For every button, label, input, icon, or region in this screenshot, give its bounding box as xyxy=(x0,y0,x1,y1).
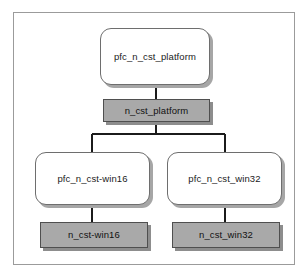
node-label: n_cst_platform xyxy=(125,106,189,116)
node-pfc-n-cst-win16[interactable]: pfc_n_cst-win16 xyxy=(35,152,150,205)
node-label: n_cst_win32 xyxy=(199,230,253,240)
diagram-canvas: pfc_n_cst_platform n_cst_platform pfc_n_… xyxy=(0,0,308,278)
node-label: pfc_n_cst_platform xyxy=(114,52,196,62)
node-n-cst-platform[interactable]: n_cst_platform xyxy=(103,99,210,122)
node-label: n_cst-win16 xyxy=(68,230,120,240)
node-n-cst-win32[interactable]: n_cst_win32 xyxy=(172,222,280,248)
node-pfc-n-cst-win32[interactable]: pfc_n_cst_win32 xyxy=(167,152,282,205)
node-pfc-n-cst-platform[interactable]: pfc_n_cst_platform xyxy=(100,28,210,85)
node-n-cst-win16[interactable]: n_cst-win16 xyxy=(40,222,148,248)
node-label: pfc_n_cst-win16 xyxy=(57,174,127,184)
node-label: pfc_n_cst_win32 xyxy=(188,174,260,184)
